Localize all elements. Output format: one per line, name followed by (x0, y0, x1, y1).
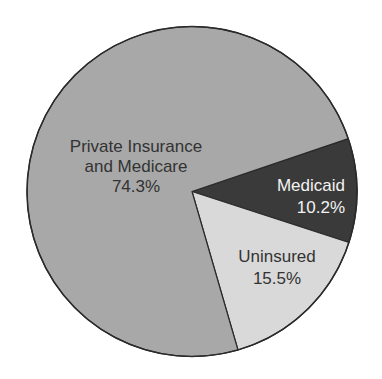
label-private-line1: Private Insurance (70, 137, 202, 156)
label-medicaid-name: Medicaid (277, 176, 345, 195)
label-private-line2: and Medicare (84, 157, 187, 176)
label-private-value: 74.3% (112, 177, 160, 196)
pie-chart: Private Insurance and Medicare 74.3% Med… (0, 0, 382, 379)
label-medicaid-value: 10.2% (297, 198, 345, 217)
label-uninsured-value: 15.5% (253, 269, 301, 288)
label-uninsured-name: Uninsured (238, 247, 316, 266)
